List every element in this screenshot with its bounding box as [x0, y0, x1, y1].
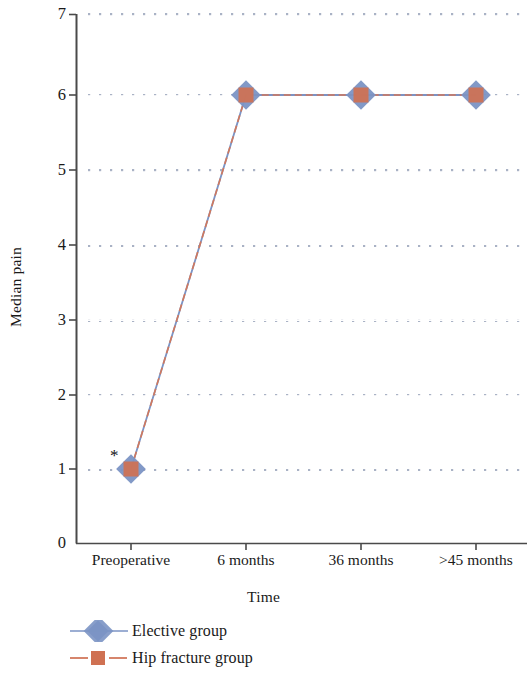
data-point-36-months: [346, 80, 376, 110]
legend-label-elective-group: Elective group: [132, 622, 227, 640]
series-hip-fracture-group: [131, 95, 476, 469]
series-elective-group: [131, 95, 476, 469]
gridlines: [82, 13, 527, 471]
data-point-45-months: [461, 80, 491, 110]
axis-lines: [76, 14, 527, 544]
legend-item-elective-group: Elective group: [66, 617, 466, 644]
data-point-preoperative: [116, 454, 146, 484]
diamond-icon: [66, 620, 132, 642]
data-point-markers: [116, 80, 491, 484]
plot-area: [0, 0, 527, 674]
y-axis-ticks: [69, 15, 76, 470]
square-icon: [66, 647, 132, 669]
series-hip-fracture-line: [131, 95, 476, 469]
chart-legend: Elective group Hip fracture group: [66, 617, 466, 671]
series-elective-line: [131, 95, 476, 469]
legend-item-hip-fracture-group: Hip fracture group: [66, 644, 466, 671]
legend-label-hip-fracture-group: Hip fracture group: [132, 649, 253, 667]
median-pain-line-chart: Median pain 7 6 5 4 3 2 1 0 Preoperative…: [0, 0, 527, 674]
data-point-6-months: [231, 80, 261, 110]
